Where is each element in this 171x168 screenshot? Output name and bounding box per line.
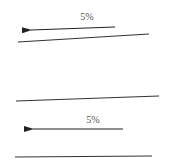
upper-grade-label: 5% [80, 11, 93, 22]
upper-left-arrow-icon [31, 27, 115, 30]
lower-grade-label: 5% [86, 114, 99, 125]
upper-section: 5% [18, 11, 149, 42]
lower-section: 5% [15, 96, 159, 157]
lower-bottom-line [15, 156, 152, 157]
lower-top-line [16, 96, 159, 101]
upper-sloped-line [18, 34, 149, 42]
slope-diagram: 5% 5% [0, 0, 171, 168]
